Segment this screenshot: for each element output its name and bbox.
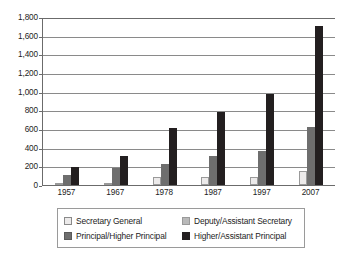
x-axis-tick-label: 2007	[287, 188, 335, 202]
bar-group	[153, 18, 177, 185]
bar	[217, 112, 225, 185]
y-axis-tick-label: 1,400	[0, 50, 38, 59]
bar	[250, 177, 258, 185]
y-axis-tick-label: 1,200	[0, 69, 38, 78]
legend-item-deputy-assistant-secretary[interactable]: Deputy/Assistant Secretary	[182, 216, 292, 226]
bar	[169, 128, 177, 185]
legend-swatch-icon	[182, 232, 190, 240]
legend-row: Principal/Higher Principal Higher/Assist…	[64, 228, 298, 243]
y-axis-tick-label: 0	[0, 181, 38, 190]
bar	[71, 167, 79, 185]
bar	[153, 177, 161, 185]
legend-swatch-icon	[64, 217, 72, 225]
x-axis-tick-label: 1997	[238, 188, 286, 202]
y-axis-tick-label: 400	[0, 144, 38, 153]
bar	[315, 26, 323, 185]
chart-figure: 02004006008001,0001,2001,4001,6001,800 1…	[0, 0, 359, 258]
y-axis-tick-label: 200	[0, 162, 38, 171]
y-axis-tick-label: 1,600	[0, 32, 38, 41]
x-axis-tick-label: 1957	[42, 188, 90, 202]
y-axis-tick-label: 1,800	[0, 13, 38, 22]
bar	[120, 156, 128, 185]
y-axis-tick-mark	[39, 186, 42, 187]
legend-label: Deputy/Assistant Secretary	[194, 216, 292, 226]
x-axis-labels: 195719671978198719972007	[42, 188, 335, 202]
bar	[266, 94, 274, 185]
bar	[258, 151, 266, 185]
x-axis-tick-label: 1978	[140, 188, 188, 202]
bar	[209, 156, 217, 185]
bar	[161, 164, 169, 185]
bar-group	[55, 18, 79, 185]
bar-group	[250, 18, 274, 185]
x-axis-tick-label: 1967	[91, 188, 139, 202]
y-axis-tick-label: 600	[0, 125, 38, 134]
bar	[299, 171, 307, 185]
bar	[201, 177, 209, 185]
legend-swatch-icon	[64, 232, 72, 240]
legend-row: Secretary General Deputy/Assistant Secre…	[64, 213, 298, 228]
bar-group	[104, 18, 128, 185]
plot-area	[42, 18, 335, 186]
bar	[307, 127, 315, 185]
bar-groups	[43, 18, 335, 185]
y-axis-tick-label: 800	[0, 106, 38, 115]
legend-label: Secretary General	[76, 216, 142, 226]
legend-item-higher-assistant-principal[interactable]: Higher/Assistant Principal	[182, 231, 286, 241]
y-axis-tick-label: 1,000	[0, 88, 38, 97]
bar	[63, 175, 71, 185]
legend-label: Principal/Higher Principal	[76, 231, 166, 241]
x-axis-tick-label: 1987	[189, 188, 237, 202]
bar-group	[201, 18, 225, 185]
chart-legend: Secretary General Deputy/Assistant Secre…	[57, 208, 305, 248]
bar-group	[299, 18, 323, 185]
legend-swatch-icon	[182, 217, 190, 225]
legend-item-secretary-general[interactable]: Secretary General	[64, 216, 182, 226]
bar	[104, 183, 112, 185]
legend-label: Higher/Assistant Principal	[194, 231, 286, 241]
legend-item-principal-higher-principal[interactable]: Principal/Higher Principal	[64, 231, 182, 241]
bar	[55, 183, 63, 185]
bar	[112, 168, 120, 185]
